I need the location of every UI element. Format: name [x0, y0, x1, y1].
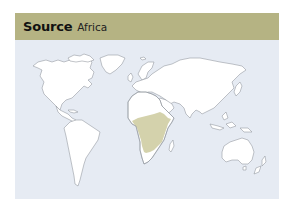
caribbean-shape — [68, 110, 78, 113]
tasmania-shape — [243, 166, 246, 170]
new-zealand-shape — [254, 156, 266, 174]
madagascar-shape — [169, 140, 174, 152]
header-subtitle: Africa — [77, 20, 107, 33]
uk-shape — [128, 73, 133, 82]
source-card: Source Africa — [15, 13, 279, 199]
header-title: Source — [23, 19, 72, 34]
japan-shape — [234, 82, 242, 96]
world-map-svg — [15, 40, 279, 199]
arctic-islands-shape — [68, 54, 94, 62]
australia-shape — [222, 138, 254, 164]
greenland-shape — [100, 55, 125, 74]
indonesia-shape — [210, 112, 252, 132]
south-america-shape — [64, 120, 100, 186]
world-map — [15, 40, 279, 199]
north-america-shape — [33, 58, 94, 110]
iceland-shape — [140, 57, 146, 60]
card-header: Source Africa — [15, 13, 279, 40]
